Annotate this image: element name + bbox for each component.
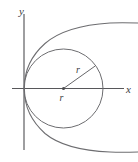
y-axis-label: y [18,5,24,17]
parabola-lower-arm [24,89,138,153]
radius-label-upper: r [76,64,80,75]
x-axis-label: x [125,83,131,95]
radius-label-lower: r [60,92,64,103]
geometry-figure: y x r r [0,0,138,162]
figure-canvas: y x r r [0,0,138,162]
circle-center-dot [62,87,65,90]
